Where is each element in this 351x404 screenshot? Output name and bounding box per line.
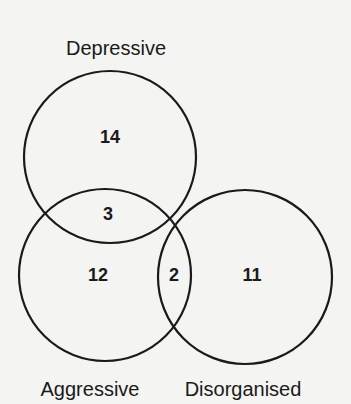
aggressive-only-count: 12 bbox=[88, 265, 108, 286]
aggressive-label: Aggressive bbox=[41, 378, 140, 401]
aggressive-disorganised-count: 2 bbox=[169, 265, 179, 286]
disorganised-only-count: 11 bbox=[242, 265, 261, 286]
depressive-aggressive-count: 3 bbox=[103, 204, 113, 225]
venn-diagram: Depressive Aggressive Disorganised 14 3 … bbox=[0, 0, 351, 404]
disorganised-label: Disorganised bbox=[185, 378, 302, 401]
depressive-label: Depressive bbox=[66, 37, 166, 60]
venn-circles bbox=[0, 0, 351, 404]
depressive-only-count: 14 bbox=[100, 127, 120, 148]
